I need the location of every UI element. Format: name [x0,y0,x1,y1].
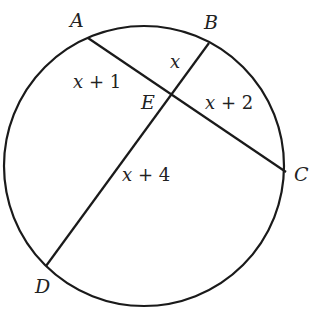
point-label-b: B [204,13,218,32]
offset: + 2 [215,92,253,113]
var-x: x [122,164,132,185]
segment-label-ae: x + 1 [73,73,121,91]
segment-label-be: x [170,53,180,71]
var-x: x [205,92,215,113]
segment-label-ed: x + 4 [122,166,170,184]
chord-bd [46,43,209,266]
var-x: x [73,71,83,92]
point-label-e: E [141,93,155,112]
diagram: A B C D E x + 1 x x + 2 x + 4 [0,0,332,332]
var-x: x [170,51,180,72]
offset: + 4 [132,164,170,185]
point-label-a: A [70,11,84,30]
segment-label-ec: x + 2 [205,94,253,112]
offset: + 1 [83,71,121,92]
point-label-d: D [35,277,50,296]
point-label-c: C [294,165,309,184]
chord-ac [88,38,286,172]
